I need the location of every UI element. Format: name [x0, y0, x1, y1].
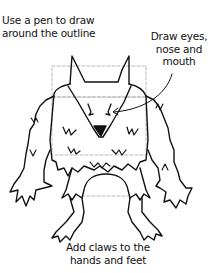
fur-mark [127, 127, 138, 135]
callout-face: Draw eyes, nose and mouth [146, 30, 212, 68]
callout-face-line-3: mouth [146, 55, 212, 68]
fur-mark [63, 127, 76, 135]
callout-outline-line-2: around the outline [2, 27, 95, 40]
left-eye-icon [88, 104, 93, 115]
callout-face-line-2: nose and [146, 43, 212, 56]
callout-face-line-1: Draw eyes, [146, 30, 212, 43]
instruction-diagram: Use a pen to draw around the outline Dra… [0, 0, 214, 273]
callout-claws-line-2: hands and feet [60, 254, 156, 267]
fur-mark [162, 164, 168, 170]
legs-outline [62, 168, 150, 200]
right-foot-outline [128, 198, 162, 240]
fur-mark [68, 147, 80, 154]
face-callout-arrow [114, 74, 172, 112]
callout-outline: Use a pen to draw around the outline [2, 14, 95, 39]
fur-mark [30, 150, 36, 156]
right-eye-icon [106, 104, 111, 115]
callout-claws-line-1: Add claws to the [60, 241, 156, 254]
callout-outline-line-1: Use a pen to draw [2, 14, 95, 27]
head-outline [70, 56, 129, 84]
right-arm-outline [146, 96, 192, 208]
fur-mark [156, 104, 163, 110]
left-foot-outline [52, 198, 84, 242]
callout-claws: Add claws to the hands and feet [60, 241, 156, 266]
fur-mark [112, 150, 126, 155]
fur-mark [90, 162, 110, 168]
left-arm-outline [10, 96, 54, 206]
